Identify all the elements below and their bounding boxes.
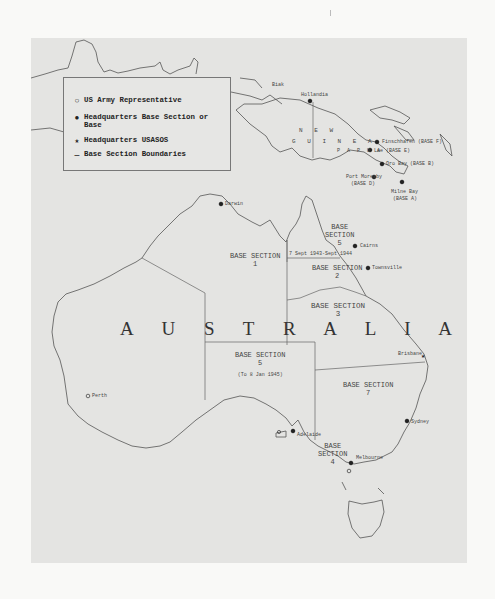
star-icon: ★: [70, 137, 84, 145]
coastline-north-islands: [31, 40, 198, 78]
place-lae: Lae (BASE E): [374, 148, 410, 154]
marker-oro-bay: [380, 162, 384, 166]
place-townsville: Townsville: [372, 265, 402, 271]
open-circle-icon: ○: [70, 97, 84, 105]
place-darwin: Darwin: [225, 201, 243, 207]
legend-item: ★ Headquarters USASOS: [70, 137, 168, 145]
marker-sydney: [405, 419, 409, 423]
place-biak: Biak: [272, 82, 284, 88]
place-perth: Perth: [92, 393, 107, 399]
place-cairns: Cairns: [360, 243, 378, 249]
section-label-7: BASE SECTION7: [343, 381, 393, 397]
place-port-moresby-base: (BASE D): [351, 181, 375, 187]
section-label-1: BASE SECTION1: [230, 252, 280, 268]
legend-label: Headquarters Base Section or Base: [84, 114, 209, 129]
section-5-dates: 7 Sept 1943-Sept 1944: [289, 251, 352, 257]
marker-melbourne-open: [347, 469, 351, 473]
marker-adelaide: [291, 429, 295, 433]
filled-circle-icon: ●: [70, 114, 84, 122]
section-label-3: BASE SECTION3: [311, 302, 365, 318]
section-label-5-south: BASE SECTION5 (To 8 Jan 1945): [235, 351, 285, 379]
place-finschhafen: Finschhafen (BASE F): [382, 139, 442, 145]
region-label-australia: A U S T R A L I A: [120, 318, 464, 340]
coastline-tasmania: [348, 500, 384, 538]
place-brisbane: Brisbane: [398, 351, 422, 357]
legend-label: US Army Representative: [84, 97, 182, 105]
place-adelaide: Adelaide: [297, 432, 321, 438]
line-icon: —: [70, 151, 84, 159]
region-label-new: N E W: [299, 127, 337, 134]
section-label-4: BASESECTION4: [318, 442, 347, 466]
place-milne-bay: Milne Bay: [391, 189, 418, 195]
marker-milne-bay: [400, 180, 404, 184]
legend-item: — Base Section Boundaries: [70, 151, 186, 159]
place-oro-bay: Oro Bay (BASE B): [386, 161, 434, 167]
place-sydney: Sydney: [411, 419, 429, 425]
place-milne-bay-base: (BASE A): [393, 196, 417, 202]
legend-label: Base Section Boundaries: [84, 151, 186, 159]
place-hollandia: Hollandia: [301, 92, 328, 98]
marker-hollandia: [308, 99, 312, 103]
region-label-guinea: G U I N E A: [292, 138, 376, 145]
marker-darwin: [219, 202, 223, 206]
marker-perth-open: [86, 394, 90, 398]
legend: ○ US Army Representative ● Headquarters …: [63, 77, 231, 171]
place-melbourne: Melbourne: [356, 455, 383, 461]
legend-item: ○ US Army Representative: [70, 97, 182, 105]
legend-label: Headquarters USASOS: [84, 137, 168, 145]
marker-townsville: [366, 266, 370, 270]
section-label-2: BASE SECTION2: [312, 264, 362, 280]
marker-finschhafen: [375, 140, 379, 144]
place-port-moresby: Port Moresby: [346, 174, 382, 180]
section-label-5-north: BASESECTION5: [325, 223, 354, 247]
legend-item: ● Headquarters Base Section or Base: [70, 114, 220, 129]
marker-melbourne: [349, 461, 353, 465]
